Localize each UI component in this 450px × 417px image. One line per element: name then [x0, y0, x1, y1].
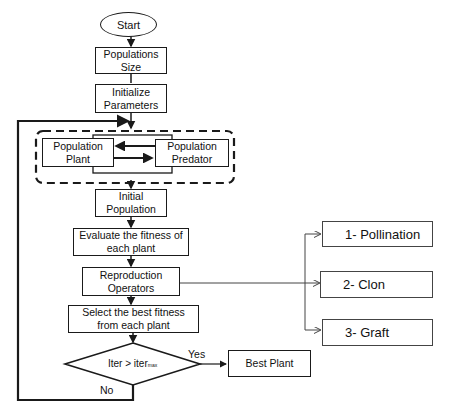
operator-label: 3- Graft: [345, 326, 389, 339]
populations-size-node: Populations Size: [95, 47, 167, 74]
evaluate-fitness-node: Evaluate the fitness of each plant: [73, 228, 189, 256]
decision-lhs: Iter > iter: [108, 358, 148, 369]
operator-label: 1- Pollination: [345, 228, 420, 241]
reproduction-operators-node: Reproduction Operators: [82, 267, 180, 296]
operator-label: 2- Clon: [343, 278, 385, 291]
population-predator-node: Population Predator: [155, 139, 229, 167]
best-plant-node: Best Plant: [228, 350, 311, 377]
start-node: Start: [100, 12, 157, 37]
operator-clon-node: 2- Clon: [320, 271, 433, 298]
population-predator-label: Population Predator: [158, 140, 226, 166]
select-best-label: Select the best fitness from each plant: [71, 306, 196, 332]
connector-layer: [0, 0, 450, 417]
decision-subscript: max: [148, 362, 157, 368]
population-plant-label: Population Plant: [45, 140, 111, 166]
evaluate-fitness-label: Evaluate the fitness of each plant: [76, 229, 186, 255]
reproduction-operators-label: Reproduction Operators: [85, 269, 177, 295]
best-plant-label: Best Plant: [246, 357, 294, 370]
operator-graft-node: 3- Graft: [322, 319, 433, 346]
initialize-parameters-node: Initialize Parameters: [95, 84, 167, 113]
select-best-node: Select the best fitness from each plant: [68, 305, 199, 333]
no-label: No: [100, 384, 113, 396]
decision-condition: Iter > itermax: [108, 358, 157, 369]
initial-population-node: Initial Population: [95, 189, 167, 217]
initial-population-label: Initial Population: [98, 190, 164, 216]
start-label: Start: [117, 19, 140, 31]
populations-size-label: Populations Size: [98, 48, 164, 74]
operator-pollination-node: 1- Pollination: [322, 221, 433, 247]
population-plant-node: Population Plant: [42, 138, 114, 167]
initialize-parameters-label: Initialize Parameters: [98, 86, 164, 112]
yes-label: Yes: [188, 348, 205, 360]
